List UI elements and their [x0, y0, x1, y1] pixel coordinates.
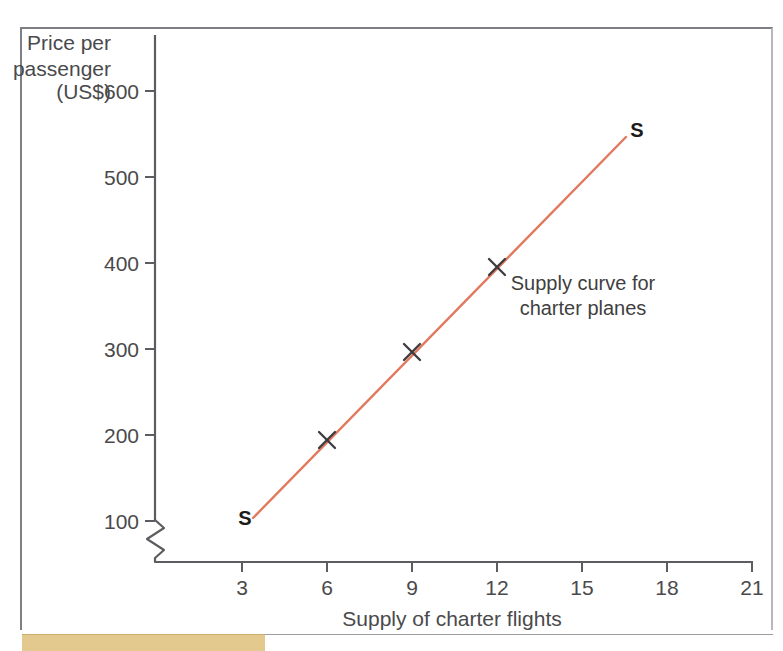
y-axis-break-zigzag [147, 520, 164, 562]
figure-page: 600 500 400 300 200 100 Price per passen… [0, 0, 783, 651]
supply-curve-line [253, 137, 626, 518]
x-tick-label-6: 6 [321, 576, 333, 599]
supply-curve-annotation: Supply curve for charter planes [511, 272, 656, 319]
x-axis-title: Supply of charter flights [342, 607, 561, 630]
figure-caption-strip [22, 634, 773, 651]
series-label-lower-s: S [238, 507, 251, 529]
y-tick-label-400: 400 [104, 252, 139, 275]
x-axis-ticks [242, 562, 752, 572]
x-tick-label-15: 15 [570, 576, 593, 599]
series-label-upper-s: S [630, 119, 643, 141]
x-tick-label-18: 18 [655, 576, 678, 599]
y-axis-tick-labels: 600 500 400 300 200 100 [104, 80, 139, 533]
x-tick-label-9: 9 [406, 576, 418, 599]
y-axis-title-line-3: (US$) [56, 80, 111, 103]
supply-curve-annotation-line-2: charter planes [520, 297, 647, 319]
y-axis-title-line-1: Price per [27, 31, 111, 54]
x-tick-label-21: 21 [740, 576, 763, 599]
y-tick-label-500: 500 [104, 166, 139, 189]
y-axis-title-line-2: passenger [13, 57, 111, 80]
supply-curve-chart: 600 500 400 300 200 100 Price per passen… [0, 0, 783, 651]
figure-caption-text [265, 634, 773, 651]
x-axis-tick-labels: 3 6 9 12 15 18 21 [236, 576, 764, 599]
y-tick-label-100: 100 [104, 510, 139, 533]
y-axis-ticks [145, 91, 155, 521]
figure-number-tag [22, 634, 265, 651]
y-tick-label-200: 200 [104, 424, 139, 447]
x-tick-label-12: 12 [485, 576, 508, 599]
y-tick-label-300: 300 [104, 338, 139, 361]
supply-curve-annotation-line-1: Supply curve for [511, 272, 656, 294]
data-point-6-200 [319, 432, 335, 448]
y-axis-title: Price per passenger (US$) [13, 31, 111, 103]
data-point-9-300 [404, 344, 420, 360]
data-point-markers [319, 259, 505, 448]
x-tick-label-3: 3 [236, 576, 248, 599]
data-point-12-400 [489, 259, 505, 275]
